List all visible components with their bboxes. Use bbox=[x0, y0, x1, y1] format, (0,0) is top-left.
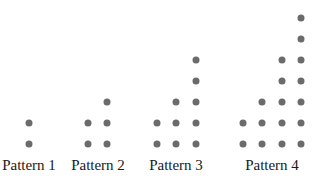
pattern-label: Pattern 1 bbox=[2, 156, 56, 174]
dot bbox=[104, 141, 111, 148]
dot bbox=[104, 99, 111, 106]
dot bbox=[85, 141, 92, 148]
dot bbox=[279, 99, 286, 106]
dot bbox=[298, 78, 305, 85]
dot bbox=[298, 141, 305, 148]
dot bbox=[173, 141, 180, 148]
dot bbox=[259, 141, 266, 148]
dot bbox=[193, 141, 200, 148]
dot bbox=[193, 78, 200, 85]
pattern-label: Pattern 4 bbox=[245, 156, 299, 174]
dot-pattern-diagram: Pattern 1Pattern 2Pattern 3Pattern 4 bbox=[0, 0, 316, 179]
dot bbox=[173, 99, 180, 106]
dot bbox=[193, 99, 200, 106]
dot bbox=[154, 120, 161, 127]
dot bbox=[26, 141, 33, 148]
pattern-label: Pattern 2 bbox=[71, 156, 125, 174]
dot bbox=[240, 120, 247, 127]
dot bbox=[259, 99, 266, 106]
dot bbox=[104, 120, 111, 127]
dot bbox=[259, 120, 266, 127]
pattern-label: Pattern 3 bbox=[149, 156, 203, 174]
dot bbox=[298, 15, 305, 22]
dot bbox=[85, 120, 92, 127]
dot bbox=[298, 99, 305, 106]
dot bbox=[173, 120, 180, 127]
dot bbox=[279, 141, 286, 148]
dot bbox=[279, 57, 286, 64]
dot bbox=[298, 36, 305, 43]
dot bbox=[154, 141, 161, 148]
dot bbox=[193, 120, 200, 127]
dot bbox=[240, 141, 247, 148]
dot bbox=[298, 57, 305, 64]
dot bbox=[279, 78, 286, 85]
dot bbox=[26, 120, 33, 127]
dot bbox=[298, 120, 305, 127]
dot bbox=[279, 120, 286, 127]
dot bbox=[193, 57, 200, 64]
